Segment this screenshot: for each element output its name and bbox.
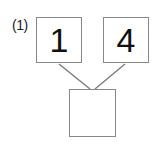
answer-box[interactable] [69,89,116,137]
top-right-value: 4 [117,21,136,60]
top-right-number-box: 4 [103,17,149,63]
top-left-value: 1 [50,21,69,60]
top-left-number-box: 1 [36,17,82,63]
